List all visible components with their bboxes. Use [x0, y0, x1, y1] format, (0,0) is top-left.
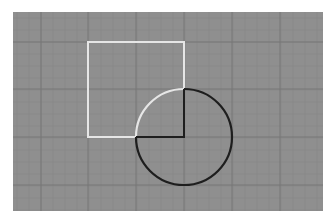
- diagram-canvas: [0, 0, 330, 221]
